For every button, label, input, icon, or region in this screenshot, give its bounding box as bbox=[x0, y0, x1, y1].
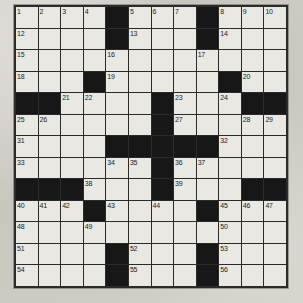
letter-cell[interactable]: 7 bbox=[174, 7, 196, 28]
letter-cell[interactable] bbox=[152, 244, 174, 265]
letter-cell[interactable]: 2 bbox=[39, 7, 61, 28]
letter-cell[interactable] bbox=[84, 265, 106, 286]
letter-cell[interactable]: 16 bbox=[106, 50, 128, 71]
letter-cell[interactable] bbox=[219, 115, 241, 136]
letter-cell[interactable] bbox=[39, 265, 61, 286]
letter-cell[interactable]: 42 bbox=[61, 201, 83, 222]
letter-cell[interactable] bbox=[61, 158, 83, 179]
letter-cell[interactable] bbox=[61, 136, 83, 157]
letter-cell[interactable] bbox=[197, 72, 219, 93]
letter-cell[interactable]: 39 bbox=[174, 179, 196, 200]
letter-cell[interactable]: 36 bbox=[174, 158, 196, 179]
letter-cell[interactable] bbox=[264, 265, 286, 286]
letter-cell[interactable]: 27 bbox=[174, 115, 196, 136]
letter-cell[interactable] bbox=[129, 222, 151, 243]
letter-cell[interactable] bbox=[174, 50, 196, 71]
letter-cell[interactable]: 24 bbox=[219, 93, 241, 114]
letter-cell[interactable]: 14 bbox=[219, 29, 241, 50]
letter-cell[interactable] bbox=[61, 50, 83, 71]
letter-cell[interactable]: 34 bbox=[106, 158, 128, 179]
letter-cell[interactable] bbox=[242, 29, 264, 50]
letter-cell[interactable]: 38 bbox=[84, 179, 106, 200]
letter-cell[interactable] bbox=[197, 115, 219, 136]
letter-cell[interactable]: 12 bbox=[16, 29, 38, 50]
letter-cell[interactable]: 26 bbox=[39, 115, 61, 136]
letter-cell[interactable] bbox=[106, 179, 128, 200]
letter-cell[interactable] bbox=[152, 50, 174, 71]
letter-cell[interactable]: 22 bbox=[84, 93, 106, 114]
letter-cell[interactable]: 3 bbox=[61, 7, 83, 28]
letter-cell[interactable] bbox=[39, 244, 61, 265]
letter-cell[interactable] bbox=[61, 72, 83, 93]
letter-cell[interactable]: 17 bbox=[197, 50, 219, 71]
letter-cell[interactable]: 23 bbox=[174, 93, 196, 114]
letter-cell[interactable] bbox=[152, 72, 174, 93]
crossword-grid[interactable]: 1234567891012131415161718192021222324252… bbox=[14, 5, 288, 288]
letter-cell[interactable] bbox=[219, 50, 241, 71]
letter-cell[interactable]: 56 bbox=[219, 265, 241, 286]
letter-cell[interactable] bbox=[84, 115, 106, 136]
letter-cell[interactable] bbox=[242, 244, 264, 265]
letter-cell[interactable]: 43 bbox=[106, 201, 128, 222]
letter-cell[interactable]: 21 bbox=[61, 93, 83, 114]
letter-cell[interactable] bbox=[84, 244, 106, 265]
letter-cell[interactable]: 35 bbox=[129, 158, 151, 179]
letter-cell[interactable]: 40 bbox=[16, 201, 38, 222]
letter-cell[interactable]: 48 bbox=[16, 222, 38, 243]
letter-cell[interactable]: 9 bbox=[242, 7, 264, 28]
letter-cell[interactable] bbox=[129, 50, 151, 71]
letter-cell[interactable] bbox=[39, 222, 61, 243]
letter-cell[interactable]: 32 bbox=[219, 136, 241, 157]
letter-cell[interactable]: 20 bbox=[242, 72, 264, 93]
letter-cell[interactable] bbox=[39, 136, 61, 157]
letter-cell[interactable] bbox=[242, 222, 264, 243]
letter-cell[interactable]: 6 bbox=[152, 7, 174, 28]
letter-cell[interactable] bbox=[264, 72, 286, 93]
letter-cell[interactable] bbox=[39, 158, 61, 179]
letter-cell[interactable]: 45 bbox=[219, 201, 241, 222]
letter-cell[interactable]: 51 bbox=[16, 244, 38, 265]
letter-cell[interactable] bbox=[84, 29, 106, 50]
letter-cell[interactable]: 33 bbox=[16, 158, 38, 179]
letter-cell[interactable] bbox=[152, 29, 174, 50]
letter-cell[interactable]: 54 bbox=[16, 265, 38, 286]
letter-cell[interactable] bbox=[129, 201, 151, 222]
letter-cell[interactable] bbox=[197, 222, 219, 243]
letter-cell[interactable]: 46 bbox=[242, 201, 264, 222]
letter-cell[interactable]: 37 bbox=[197, 158, 219, 179]
letter-cell[interactable] bbox=[264, 158, 286, 179]
letter-cell[interactable] bbox=[264, 222, 286, 243]
letter-cell[interactable] bbox=[242, 265, 264, 286]
letter-cell[interactable]: 13 bbox=[129, 29, 151, 50]
letter-cell[interactable] bbox=[129, 72, 151, 93]
letter-cell[interactable] bbox=[174, 244, 196, 265]
letter-cell[interactable] bbox=[129, 115, 151, 136]
letter-cell[interactable]: 49 bbox=[84, 222, 106, 243]
letter-cell[interactable] bbox=[152, 265, 174, 286]
letter-cell[interactable] bbox=[129, 179, 151, 200]
letter-cell[interactable] bbox=[197, 93, 219, 114]
letter-cell[interactable] bbox=[264, 50, 286, 71]
letter-cell[interactable]: 31 bbox=[16, 136, 38, 157]
letter-cell[interactable]: 1 bbox=[16, 7, 38, 28]
letter-cell[interactable] bbox=[61, 222, 83, 243]
letter-cell[interactable] bbox=[84, 136, 106, 157]
letter-cell[interactable]: 52 bbox=[129, 244, 151, 265]
letter-cell[interactable]: 47 bbox=[264, 201, 286, 222]
letter-cell[interactable] bbox=[242, 50, 264, 71]
letter-cell[interactable]: 55 bbox=[129, 265, 151, 286]
letter-cell[interactable]: 10 bbox=[264, 7, 286, 28]
letter-cell[interactable] bbox=[106, 115, 128, 136]
letter-cell[interactable]: 28 bbox=[242, 115, 264, 136]
letter-cell[interactable] bbox=[264, 244, 286, 265]
letter-cell[interactable] bbox=[264, 136, 286, 157]
letter-cell[interactable]: 19 bbox=[106, 72, 128, 93]
letter-cell[interactable] bbox=[106, 93, 128, 114]
letter-cell[interactable]: 50 bbox=[219, 222, 241, 243]
letter-cell[interactable] bbox=[174, 29, 196, 50]
letter-cell[interactable]: 8 bbox=[219, 7, 241, 28]
letter-cell[interactable]: 15 bbox=[16, 50, 38, 71]
letter-cell[interactable] bbox=[39, 29, 61, 50]
letter-cell[interactable]: 53 bbox=[219, 244, 241, 265]
letter-cell[interactable] bbox=[174, 265, 196, 286]
